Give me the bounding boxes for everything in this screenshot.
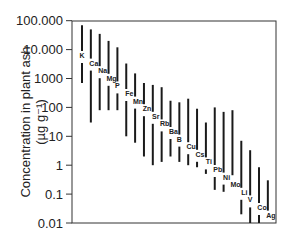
y-tick-label: 0.1: [45, 187, 63, 202]
bar-rb: Rb: [160, 87, 169, 162]
bar-pb: Pb: [213, 107, 222, 189]
element-label: B: [177, 136, 182, 143]
range-chart: Concentration in plant ash (µg g⁻¹) 100.…: [0, 0, 292, 240]
bar-na: Na: [98, 34, 107, 110]
bar-zn: Zn: [143, 83, 152, 157]
bar-ag: Ag: [266, 180, 275, 219]
bar-li: Li: [241, 141, 247, 215]
y-tick-label: 1000: [34, 71, 63, 86]
element-label: Ca: [89, 60, 98, 67]
y-tick-label: 100.000: [16, 13, 63, 28]
element-label: Co: [257, 204, 266, 211]
y-tick-label: 100: [41, 100, 63, 115]
bar-mg: Mg: [106, 41, 116, 110]
bar-v: V: [248, 150, 253, 223]
element-label: Cs: [196, 151, 205, 158]
element-label: Na: [98, 67, 107, 74]
element-label: Cu: [187, 143, 196, 150]
bar-sr: Sr: [152, 85, 160, 165]
element-label: K: [79, 52, 84, 59]
element-range-bars: KCaNaMgPFeMnZnSrRbBaBCuCsTiPbNiMoLiVCoAg: [79, 25, 275, 223]
element-label: Li: [241, 189, 247, 196]
bar-ca: Ca: [89, 29, 98, 122]
element-label: V: [248, 196, 253, 203]
bar-k: K: [79, 25, 84, 83]
bar-ni: Ni: [223, 112, 230, 192]
element-label: Mo: [230, 181, 240, 188]
element-label: Mn: [133, 98, 143, 105]
bar-mn: Mn: [133, 73, 143, 142]
bar-cu: Cu: [187, 99, 196, 165]
element-label: Ti: [206, 158, 212, 165]
bar-ba: Ba: [169, 101, 178, 157]
y-axis-title: Concentration in plant ash: [18, 46, 33, 197]
bar-ti: Ti: [206, 123, 212, 174]
element-label: P: [115, 82, 120, 89]
y-axis-label: Concentration in plant ash (µg g⁻¹): [18, 46, 48, 197]
bar-mo: Mo: [230, 110, 240, 188]
y-tick-label: 10.000: [23, 42, 63, 57]
bar-cs: Cs: [196, 109, 205, 168]
element-label: Rb: [160, 120, 169, 127]
y-tick-label: 1: [56, 158, 63, 173]
element-label: Ni: [223, 174, 230, 181]
y-tick-label: 0.01: [38, 216, 63, 231]
element-label: Ba: [169, 128, 178, 135]
y-tick-label: 10: [49, 129, 63, 144]
element-label: Sr: [152, 113, 160, 120]
element-label: Fe: [125, 90, 133, 97]
element-label: Pb: [213, 166, 222, 173]
element-label: Ag: [266, 212, 275, 220]
element-label: Zn: [143, 105, 152, 112]
